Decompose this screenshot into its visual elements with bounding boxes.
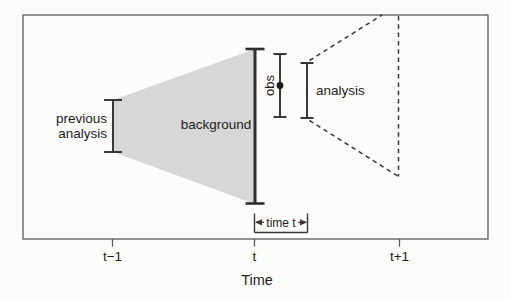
axis-title: Time: [241, 272, 273, 288]
time-window-bracket: time t: [255, 214, 308, 233]
time-window-right-arrowhead-icon: [300, 219, 307, 225]
tick-label-t-plus-1: t+1: [390, 249, 409, 264]
obs-point: [277, 82, 284, 89]
previous-analysis-label-line1: previous: [56, 111, 107, 126]
forecast-lower-dashed-line: [310, 121, 399, 177]
forecast-upper-dashed-line: [310, 15, 383, 61]
tick-label-t: t: [253, 249, 257, 264]
figure: previous analysis background obs analysi…: [0, 0, 511, 299]
tick-label-t-minus-1: t−1: [103, 249, 122, 264]
time-window-label: time t: [266, 216, 296, 230]
obs-label: obs: [262, 75, 277, 96]
analysis-errorbar: [301, 63, 314, 118]
previous-analysis-label-line2: analysis: [58, 126, 107, 141]
figure-canvas: previous analysis background obs analysi…: [0, 0, 511, 299]
time-window-left-arrowhead-icon: [255, 219, 262, 225]
background-label: background: [181, 117, 252, 132]
analysis-label: analysis: [316, 83, 365, 98]
